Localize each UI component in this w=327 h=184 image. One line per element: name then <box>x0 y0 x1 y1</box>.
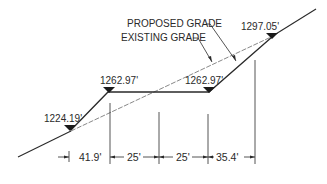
dimension-label-bench-2: 25' <box>176 151 190 163</box>
proposed-grade-label: PROPOSED GRADE <box>127 18 222 29</box>
elevation-label-upper: 1297.05' <box>241 21 279 32</box>
arrow-icon <box>159 156 164 159</box>
arrow-icon <box>208 156 213 159</box>
grading-diagram: 1224.19' 1262.97' 1262.97' 1297.05' PROP… <box>0 0 327 184</box>
arrow-icon <box>154 156 159 159</box>
proposed-grade-arrow-icon <box>232 55 236 61</box>
dimension-label-slope-2: 35.4' <box>216 151 238 163</box>
elevation-marker-upper <box>266 33 278 39</box>
arrow-icon <box>64 156 69 159</box>
existing-grade-label: EXISTING GRADE <box>121 32 206 43</box>
arrow-icon <box>250 156 255 159</box>
elevation-label-lower: 1224.19' <box>44 113 82 124</box>
elevation-label-bench-left: 1262.97' <box>100 75 138 86</box>
elevation-marker-lower <box>64 125 76 131</box>
existing-grade-arrow-icon <box>208 56 212 62</box>
arrow-icon <box>203 156 208 159</box>
existing-grade-lower <box>18 131 71 157</box>
dimension-label-bench-1: 25' <box>127 151 141 163</box>
elevation-label-bench-right: 1262.97' <box>185 75 223 86</box>
dimension-label-slope-1: 41.9' <box>79 151 101 163</box>
arrow-icon <box>110 156 115 159</box>
